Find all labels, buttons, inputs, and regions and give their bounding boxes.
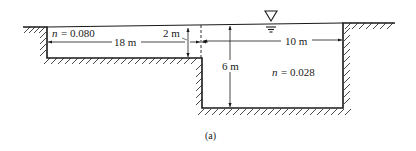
roughness-left-value: = 0.080 bbox=[61, 27, 95, 39]
width-18m-label: 18 m bbox=[114, 36, 137, 48]
width-10m-label: 10 m bbox=[285, 35, 308, 47]
depth-2m-label: 2 m bbox=[163, 27, 180, 39]
roughness-main-symbol: n bbox=[272, 66, 278, 78]
depth-6m-label: 6 m bbox=[222, 60, 239, 72]
compound-channel-diagram: 18 m 2 m 10 m 6 m n = 0.080 n = 0.028 (a… bbox=[0, 0, 416, 151]
free-surface-triangle-icon bbox=[265, 11, 277, 32]
figure-caption: (a) bbox=[205, 130, 216, 142]
roughness-left-symbol: n bbox=[52, 27, 58, 39]
roughness-main-value: = 0.028 bbox=[281, 66, 315, 78]
